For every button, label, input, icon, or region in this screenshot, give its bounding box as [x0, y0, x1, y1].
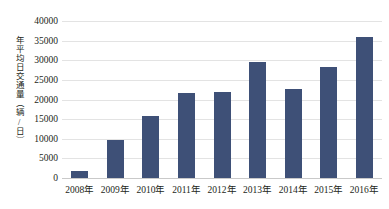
bars-container: [62, 21, 382, 178]
y-axis-tick-label: 40000: [34, 16, 58, 26]
gridline: [62, 178, 382, 179]
bar[interactable]: [320, 67, 337, 178]
bar-slot: [311, 21, 347, 178]
x-axis-tick-label: 2008年: [62, 182, 98, 196]
y-axis-tick-label: 10000: [34, 134, 58, 144]
bar-chart: 年平均日交通量（辆/日） 400003500030000250002000015…: [0, 0, 389, 209]
x-axis-tick-label: 2016年: [347, 182, 383, 196]
bar-slot: [347, 21, 383, 178]
bar[interactable]: [142, 116, 159, 178]
y-axis-tick-label: 5000: [39, 153, 58, 163]
x-axis-tick-label: 2010年: [133, 182, 169, 196]
bar[interactable]: [285, 89, 302, 178]
x-axis-tick-labels: 2008年2009年2010年2011年2012年2013年2014年2015年…: [62, 182, 382, 196]
bar[interactable]: [214, 92, 231, 178]
x-axis-tick-label: 2015年: [311, 182, 347, 196]
y-axis-tick-label: 0: [53, 173, 58, 183]
bar[interactable]: [107, 140, 124, 178]
bar-slot: [98, 21, 134, 178]
bar-slot: [133, 21, 169, 178]
y-axis-tick-label: 25000: [34, 75, 58, 85]
bar-slot: [240, 21, 276, 178]
bar[interactable]: [356, 37, 373, 178]
bar[interactable]: [249, 62, 266, 178]
y-axis-tick-labels: 4000035000300002500020000150001000050000: [24, 21, 60, 178]
x-axis-tick-label: 2009年: [98, 182, 134, 196]
bar-slot: [275, 21, 311, 178]
y-axis-tick-label: 35000: [34, 36, 58, 46]
x-axis-tick-label: 2012年: [204, 182, 240, 196]
bar[interactable]: [178, 93, 195, 178]
x-axis-tick-label: 2011年: [169, 182, 205, 196]
bar-slot: [169, 21, 205, 178]
x-axis-tick-label: 2014年: [275, 182, 311, 196]
plot-area: [62, 21, 382, 178]
bar[interactable]: [71, 171, 88, 178]
x-axis-tick-label: 2013年: [240, 182, 276, 196]
y-axis-tick-label: 30000: [34, 55, 58, 65]
y-axis-tick-label: 15000: [34, 114, 58, 124]
y-axis-tick-label: 20000: [34, 95, 58, 105]
bar-slot: [204, 21, 240, 178]
bar-slot: [62, 21, 98, 178]
